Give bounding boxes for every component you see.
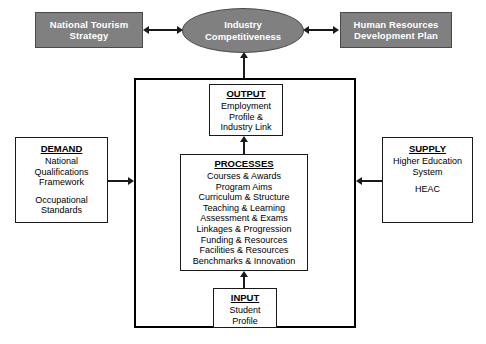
input-line-2: Profile bbox=[232, 316, 258, 327]
supply-line-3: HEAC bbox=[415, 184, 440, 195]
output-box: OUTPUT Employment Profile & Industry Lin… bbox=[209, 84, 283, 136]
processes-line-7: Funding & Resources bbox=[201, 235, 288, 246]
demand-line-1: National bbox=[45, 156, 78, 167]
input-box: INPUT Student Profile bbox=[213, 288, 277, 328]
supply-box: SUPPLY Higher Education System HEAC bbox=[382, 137, 473, 223]
industry-competitiveness-line-2: Competitiveness bbox=[205, 31, 281, 43]
input-title: INPUT bbox=[231, 292, 260, 304]
national-tourism-strategy-line-2: Strategy bbox=[70, 30, 109, 42]
processes-title: PROCESSES bbox=[214, 158, 273, 170]
national-tourism-strategy-box: National Tourism Strategy bbox=[35, 12, 143, 48]
demand-line-2: Qualifications bbox=[34, 167, 88, 178]
demand-line-4: Occupational bbox=[35, 195, 88, 206]
human-resources-development-plan-box: Human Resources Development Plan bbox=[340, 12, 452, 48]
processes-line-4: Teaching & Learning bbox=[203, 203, 285, 214]
industry-competitiveness-line-1: Industry bbox=[224, 19, 261, 31]
input-line-1: Student bbox=[229, 305, 260, 316]
processes-line-1: Courses & Awards bbox=[207, 171, 281, 182]
processes-line-8: Facilities & Resources bbox=[199, 245, 288, 256]
demand-title: DEMAND bbox=[41, 143, 83, 155]
diagram-canvas: National Tourism Strategy Industry Compe… bbox=[0, 0, 486, 344]
hr-development-plan-line-1: Human Resources bbox=[354, 19, 439, 31]
national-tourism-strategy-line-1: National Tourism bbox=[50, 19, 129, 31]
output-line-3: Industry Link bbox=[220, 122, 271, 133]
supply-line-2: System bbox=[412, 167, 442, 178]
supply-title: SUPPLY bbox=[409, 143, 446, 155]
processes-box: PROCESSES Courses & Awards Program Aims … bbox=[180, 154, 308, 271]
output-line-1: Employment bbox=[221, 101, 271, 112]
output-line-2: Profile & bbox=[229, 112, 263, 123]
processes-line-9: Benchmarks & Innovation bbox=[193, 256, 296, 267]
output-title: OUTPUT bbox=[226, 88, 265, 100]
supply-line-1: Higher Education bbox=[393, 156, 462, 167]
processes-line-3: Curriculum & Structure bbox=[198, 192, 289, 203]
hr-development-plan-line-2: Development Plan bbox=[354, 30, 438, 42]
demand-line-5: Standards bbox=[41, 205, 82, 216]
industry-competitiveness-ellipse: Industry Competitiveness bbox=[182, 8, 304, 53]
demand-box: DEMAND National Qualifications Framework… bbox=[15, 137, 108, 223]
processes-line-2: Program Aims bbox=[216, 182, 273, 193]
demand-line-3: Framework bbox=[39, 177, 84, 188]
processes-line-5: Assessment & Exams bbox=[200, 213, 288, 224]
processes-line-6: Linkages & Progression bbox=[196, 224, 291, 235]
